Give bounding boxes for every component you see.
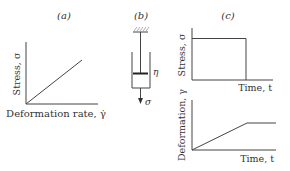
panel-b-dashpot: (b) η σ (132, 10, 159, 107)
load-symbol: σ (145, 97, 152, 107)
viscosity-symbol: η (153, 67, 159, 77)
panel-a-linear-line (26, 60, 82, 104)
deformation-xlabel: Time, t (240, 153, 274, 164)
panel-c: (c) Stress, σ Time, t Deformation, γ Tim… (176, 10, 276, 164)
panel-a-ylabel: Stress, σ (11, 52, 22, 95)
stress-step-line (192, 39, 246, 81)
panel-c-stress-plot: Stress, σ Time, t (176, 28, 273, 93)
deformation-ylabel: Deformation, γ (176, 89, 187, 161)
panel-b-label: (b) (134, 10, 148, 21)
deformation-ramp-line (192, 123, 276, 150)
panel-a-xlabel: Deformation rate, γ̇ (6, 108, 106, 119)
stress-ylabel: Stress, σ (176, 33, 187, 76)
viscous-fluid-diagram: (a) Stress, σ Deformation rate, γ̇ (b) η… (0, 0, 290, 171)
panel-a-label: (a) (57, 10, 71, 21)
stress-xlabel: Time, t (238, 82, 272, 93)
panel-c-deformation-plot: Deformation, γ Time, t (176, 89, 276, 164)
fixed-support-icon (133, 27, 149, 32)
arrow-down-icon (138, 98, 143, 104)
panel-c-label: (c) (221, 10, 235, 21)
panel-a: (a) Stress, σ Deformation rate, γ̇ (6, 10, 106, 119)
